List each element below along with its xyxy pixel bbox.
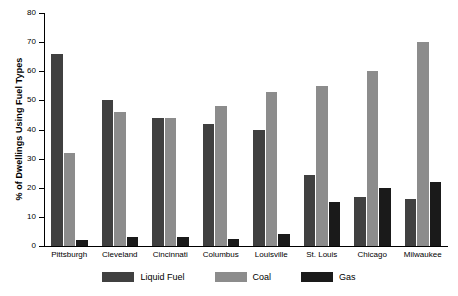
y-axis-tick-label: 50 [27,94,36,105]
y-axis-tick-label: 80 [27,7,36,18]
legend-entry: Gas [301,272,356,282]
bar [278,234,290,246]
y-axis-tick: 60 [39,71,44,72]
bar [215,106,227,246]
y-axis-tick: 70 [39,42,44,43]
y-axis-line [44,13,45,247]
legend-swatch [102,272,134,282]
y-axis-tick-label: 40 [27,124,36,135]
bar [430,182,442,246]
bar [51,54,63,246]
y-axis-tick-label: 70 [27,36,36,47]
x-axis-tick-label: Columbus [203,250,239,259]
bar [228,239,240,246]
bar [102,100,114,246]
bar [165,118,177,246]
bar [367,71,379,246]
y-axis-tick-label: 10 [27,211,36,222]
legend-entry: Liquid Fuel [102,272,184,282]
legend-label: Coal [253,272,272,282]
bar [253,130,265,247]
x-axis-tick-label: Chicago [358,250,387,259]
bar [114,112,126,246]
y-axis-tick: 20 [39,188,44,189]
chart-legend: Liquid FuelCoalGas [0,272,458,282]
bar-group: Cincinnati [152,13,189,246]
bar [304,175,316,246]
y-axis-tick: 80 [39,13,44,14]
bar [354,197,366,247]
bar [329,202,341,246]
legend-label: Liquid Fuel [140,272,184,282]
bar [152,118,164,246]
x-axis-tick-label: Milwaukee [404,250,442,259]
bar [417,42,429,246]
bar [405,199,417,246]
legend-swatch [215,272,247,282]
x-axis-tick-label: St. Louis [306,250,337,259]
y-axis-tick-label: 30 [27,153,36,164]
y-axis-tick: 40 [39,130,44,131]
y-axis-tick: 30 [39,159,44,160]
bar-group: Louisville [253,13,290,246]
x-axis-line [44,246,448,247]
x-axis-tick-label: Cincinnati [153,250,188,259]
bar [266,92,278,246]
legend-label: Gas [339,272,356,282]
bar-group: Columbus [203,13,240,246]
bar-group: Milwaukee [405,13,442,246]
bar-group: St. Louis [304,13,341,246]
y-axis-tick: 50 [39,100,44,101]
bar [177,237,189,246]
plot-area: 01020304050607080 PittsburghClevelandCin… [44,13,448,247]
x-axis-tick-label: Pittsburgh [51,250,87,259]
bar [64,153,76,246]
legend-swatch [301,272,333,282]
y-axis-tick-label: 0 [32,240,36,251]
bar-group: Cleveland [102,13,139,246]
bar [127,237,139,246]
y-axis-tick-label: 60 [27,65,36,76]
bar [76,240,88,246]
x-axis-tick-label: Louisville [255,250,288,259]
bar-group: Pittsburgh [51,13,88,246]
x-axis-tick-label: Cleveland [102,250,138,259]
bar [379,188,391,246]
bar [316,86,328,246]
bar-chart-figure: % of Dwellings Using Fuel Types 01020304… [0,0,458,296]
bar [203,124,215,246]
y-axis-tick-label: 20 [27,182,36,193]
legend-entry: Coal [215,272,272,282]
y-axis-tick: 0 [39,246,44,247]
y-axis-tick: 10 [39,217,44,218]
bar-group: Chicago [354,13,391,246]
y-axis-title: % of Dwellings Using Fuel Types [14,14,24,244]
